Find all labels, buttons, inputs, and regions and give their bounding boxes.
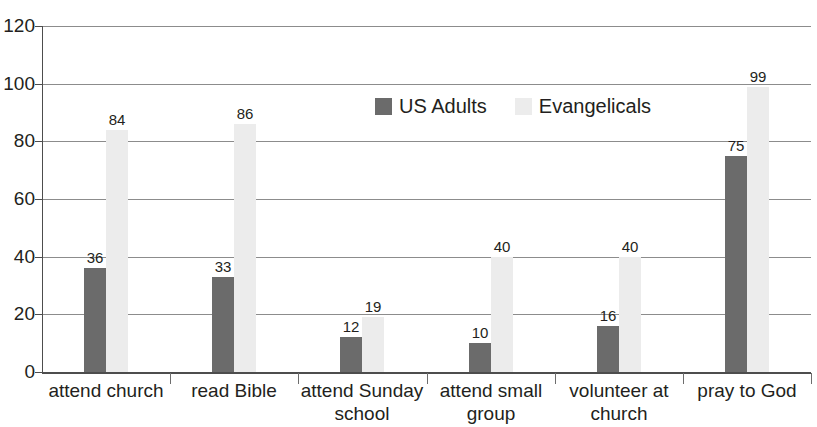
category-label-0: attend church xyxy=(42,379,170,402)
bar-us-5 xyxy=(725,156,747,372)
category-label-2: attend Sundayschool xyxy=(298,379,426,425)
y-axis-labels: 120100806040200 xyxy=(0,0,35,427)
bar-us-4 xyxy=(597,326,619,372)
category-label-line: group xyxy=(427,402,555,425)
category-label-line: school xyxy=(298,402,426,425)
bar-us-0 xyxy=(84,268,106,372)
bar-value-ev-5: 99 xyxy=(738,69,778,84)
y-tick-label-20: 20 xyxy=(1,304,35,323)
bar-us-3 xyxy=(469,343,491,372)
gridline-80 xyxy=(42,141,811,142)
legend-label: Evangelicals xyxy=(539,96,651,116)
y-tick-mark-20 xyxy=(35,314,43,315)
bar-ev-1 xyxy=(234,124,256,372)
legend-item-1: Evangelicals xyxy=(515,96,651,116)
y-tick-label-40: 40 xyxy=(1,247,35,266)
y-tick-mark-120 xyxy=(35,26,43,27)
y-tick-label-60: 60 xyxy=(1,189,35,208)
bar-value-ev-3: 40 xyxy=(482,239,522,254)
category-label-line: attend church xyxy=(42,379,170,402)
legend-item-0: US Adults xyxy=(375,96,487,116)
bar-ev-0 xyxy=(106,130,128,372)
bar-value-ev-4: 40 xyxy=(610,239,650,254)
bar-ev-3 xyxy=(491,257,513,372)
y-tick-mark-60 xyxy=(35,199,43,200)
y-tick-label-80: 80 xyxy=(1,131,35,150)
category-label-line: read Bible xyxy=(170,379,298,402)
chart-title-clipped xyxy=(170,0,650,6)
bar-value-ev-0: 84 xyxy=(97,112,137,127)
gridline-40 xyxy=(42,257,811,258)
bar-ev-4 xyxy=(619,257,641,372)
y-tick-label-100: 100 xyxy=(1,74,35,93)
y-tick-mark-0 xyxy=(35,372,43,373)
legend-label: US Adults xyxy=(399,96,487,116)
category-label-line: attend small xyxy=(427,379,555,402)
gridline-20 xyxy=(42,314,811,315)
legend-swatch-icon-ev xyxy=(515,98,532,115)
bar-us-1 xyxy=(212,277,234,372)
category-label-1: read Bible xyxy=(170,379,298,402)
gridline-60 xyxy=(42,199,811,200)
category-label-line: attend Sunday xyxy=(298,379,426,402)
bar-chart: 120100806040200 368433861219104016407599… xyxy=(0,0,817,427)
y-tick-mark-80 xyxy=(35,141,43,142)
y-tick-mark-40 xyxy=(35,257,43,258)
category-label-5: pray to God xyxy=(683,379,811,402)
category-label-3: attend smallgroup xyxy=(427,379,555,425)
bar-ev-5 xyxy=(747,87,769,372)
bar-us-2 xyxy=(340,337,362,372)
legend-swatch-icon-us xyxy=(375,98,392,115)
legend: US AdultsEvangelicals xyxy=(375,96,651,116)
category-label-line: church xyxy=(555,402,683,425)
bar-ev-2 xyxy=(362,317,384,372)
gridline-120 xyxy=(42,26,811,27)
category-tick-end xyxy=(811,373,812,384)
gridline-100 xyxy=(42,84,811,85)
y-tick-mark-100 xyxy=(35,84,43,85)
category-label-line: volunteer at xyxy=(555,379,683,402)
bar-value-ev-2: 19 xyxy=(353,299,393,314)
category-label-line: pray to God xyxy=(683,379,811,402)
category-label-4: volunteer atchurch xyxy=(555,379,683,425)
y-tick-label-120: 120 xyxy=(1,16,35,35)
y-tick-label-0: 0 xyxy=(1,362,35,381)
plot-area xyxy=(42,26,811,372)
bar-value-ev-1: 86 xyxy=(225,106,265,121)
